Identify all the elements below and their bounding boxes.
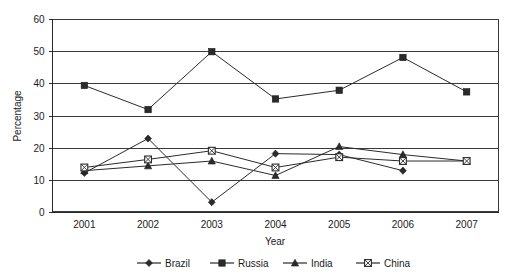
y-tick-label-0: 0: [39, 207, 45, 218]
x-tick-label-2003: 2003: [201, 219, 224, 230]
x-tick-label-2001: 2001: [73, 219, 96, 230]
y-axis-title: Percentage: [12, 90, 23, 142]
y-tick-label-30: 30: [33, 111, 45, 122]
chart-canvas: 0102030405060 20012002200320042005200620…: [0, 0, 513, 279]
marker-russia-2007: [463, 89, 469, 95]
marker-china-2002: [145, 156, 152, 163]
legend-label-india: India: [311, 258, 333, 269]
marker-china-2006: [400, 158, 407, 165]
chart-background: [0, 0, 513, 279]
marker-china-2004: [272, 164, 279, 171]
x-tick-label-2005: 2005: [328, 219, 351, 230]
marker-russia-2006: [400, 54, 406, 60]
x-axis-title: Year: [265, 236, 286, 247]
legend-marker-china: [365, 260, 372, 267]
x-tick-label-2006: 2006: [392, 219, 415, 230]
legend-label-china: China: [384, 258, 411, 269]
legend-label-russia: Russia: [238, 258, 269, 269]
line-chart: 0102030405060 20012002200320042005200620…: [0, 0, 513, 279]
marker-china-2007: [463, 158, 470, 165]
legend-label-brazil: Brazil: [165, 258, 190, 269]
legend-marker-russia: [219, 260, 225, 266]
y-tick-label-20: 20: [33, 143, 45, 154]
y-tick-label-10: 10: [33, 175, 45, 186]
y-tick-label-60: 60: [33, 14, 45, 25]
marker-russia-2001: [81, 82, 87, 88]
y-tick-label-50: 50: [33, 46, 45, 57]
marker-russia-2003: [209, 48, 215, 54]
x-tick-label-2004: 2004: [264, 219, 287, 230]
marker-russia-2004: [272, 96, 278, 102]
y-tick-label-40: 40: [33, 78, 45, 89]
marker-china-2001: [81, 164, 88, 171]
marker-china-2005: [336, 154, 343, 161]
x-tick-label-2007: 2007: [456, 219, 479, 230]
marker-russia-2002: [145, 106, 151, 112]
marker-china-2003: [208, 147, 215, 154]
x-tick-label-2002: 2002: [137, 219, 160, 230]
marker-russia-2005: [336, 87, 342, 93]
